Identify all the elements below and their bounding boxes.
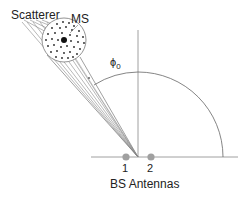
- disk-tangent-right: [80, 57, 138, 157]
- bs-antenna-1: [122, 153, 129, 160]
- bs-antenna-2: [147, 153, 154, 160]
- mobile-station: [61, 37, 67, 43]
- antenna-1-label: 1: [122, 163, 128, 174]
- antenna-2-label: 2: [147, 163, 153, 174]
- scatterer-label: Scatterer: [11, 9, 60, 21]
- ray-tick: [88, 77, 90, 79]
- angle-label: ϕ0: [110, 57, 121, 71]
- disk-tangent-left: [47, 55, 138, 157]
- ms-label: MS: [71, 13, 89, 25]
- bs-antennas-label: BS Antennas: [110, 178, 179, 190]
- angle-subscript: 0: [116, 62, 120, 71]
